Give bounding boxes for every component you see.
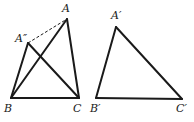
- vertex-label-a1: A′: [110, 9, 122, 22]
- segment-a2-b: [11, 43, 28, 98]
- segment-a1-b1: [96, 27, 116, 98]
- right-triangle-figure: A′B′C′: [89, 9, 187, 115]
- dashed-segment-a2-a: [28, 19, 67, 43]
- vertex-label-a: A: [61, 2, 70, 15]
- vertex-label-a2: A″: [14, 32, 28, 45]
- left-triangle-figure: AA″BC: [3, 2, 82, 115]
- segment-b1-c1: [96, 98, 182, 99]
- segment-a-b: [11, 19, 67, 98]
- geometry-diagram: AA″BC A′B′C′: [0, 0, 194, 122]
- vertex-label-b: B: [3, 102, 12, 115]
- segment-a1-c1: [116, 27, 182, 99]
- vertex-label-c: C: [73, 102, 82, 115]
- vertex-label-b1: B′: [89, 102, 101, 115]
- vertex-label-c1: C′: [176, 102, 187, 115]
